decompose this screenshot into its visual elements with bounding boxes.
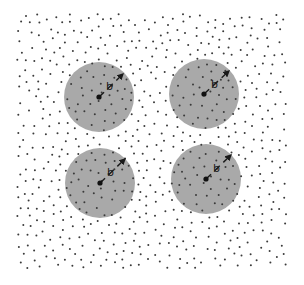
point-dot xyxy=(219,265,221,267)
point-dot xyxy=(234,25,236,27)
point-dot xyxy=(241,255,243,257)
point-dot xyxy=(100,188,102,190)
point-dot xyxy=(147,244,149,246)
point-dot xyxy=(163,140,165,142)
point-dot xyxy=(27,245,29,247)
point-dot xyxy=(264,55,266,57)
point-dot xyxy=(19,75,21,77)
point-dot xyxy=(123,119,125,121)
point-dot xyxy=(222,87,224,89)
point-dot xyxy=(82,95,84,97)
point-dot xyxy=(257,38,259,40)
point-dot xyxy=(279,166,281,168)
point-dot xyxy=(91,30,93,32)
point-dot xyxy=(57,132,59,134)
point-dot xyxy=(19,102,21,104)
point-dot xyxy=(91,63,93,65)
point-dot xyxy=(83,201,85,203)
point-dot xyxy=(128,165,130,167)
point-dot xyxy=(193,257,195,259)
point-dot xyxy=(103,129,105,131)
point-dot xyxy=(62,244,64,246)
point-dot xyxy=(205,153,207,155)
point-dot xyxy=(135,47,137,49)
point-dot xyxy=(58,189,60,191)
point-dot xyxy=(176,116,178,118)
point-field-figure: bbbb xyxy=(0,0,304,285)
point-dot xyxy=(146,169,148,171)
point-dot xyxy=(130,92,132,94)
point-dot xyxy=(84,61,86,63)
point-dot xyxy=(104,214,106,216)
point-dot xyxy=(93,137,95,139)
point-dot xyxy=(143,125,145,127)
point-dot xyxy=(124,157,126,159)
point-dot xyxy=(59,236,61,238)
point-dot xyxy=(139,246,141,248)
point-dot xyxy=(283,253,285,255)
point-dot xyxy=(155,48,157,50)
point-dot xyxy=(69,238,71,240)
point-dot xyxy=(271,64,273,66)
point-dot xyxy=(168,242,170,244)
point-dot xyxy=(184,178,186,180)
point-dot xyxy=(224,233,226,235)
point-dot xyxy=(137,120,139,122)
point-dot xyxy=(112,152,114,154)
point-dot xyxy=(104,44,106,46)
point-dot xyxy=(110,18,112,20)
point-dot xyxy=(251,125,253,127)
point-dot xyxy=(133,152,135,154)
point-dot xyxy=(25,180,27,182)
point-dot xyxy=(159,261,161,263)
point-dot xyxy=(33,60,35,62)
radius-label: b xyxy=(106,80,113,93)
point-dot xyxy=(163,223,165,225)
point-dot xyxy=(207,118,209,120)
point-dot xyxy=(206,64,208,66)
point-dot xyxy=(139,191,141,193)
point-dot xyxy=(165,114,167,116)
point-dot xyxy=(163,160,165,162)
point-dot xyxy=(166,49,168,51)
point-dot xyxy=(249,16,251,18)
point-dot xyxy=(228,179,230,181)
point-dot xyxy=(284,62,286,64)
point-dot xyxy=(38,34,40,36)
point-dot xyxy=(132,135,134,137)
point-dot xyxy=(214,19,216,21)
point-dot xyxy=(80,31,82,33)
point-dot xyxy=(81,169,83,171)
point-dot xyxy=(184,32,186,34)
point-dot xyxy=(125,108,127,110)
point-dot xyxy=(169,191,171,193)
point-dot xyxy=(262,63,264,65)
point-dot xyxy=(121,98,123,100)
point-dot xyxy=(145,204,147,206)
point-dot xyxy=(90,46,92,48)
point-dot xyxy=(162,194,164,196)
point-dot xyxy=(123,250,125,252)
point-dot xyxy=(216,103,218,105)
point-dot xyxy=(239,206,241,208)
point-dot xyxy=(25,15,27,17)
point-dot xyxy=(74,127,76,129)
point-dot xyxy=(247,222,249,224)
point-dot xyxy=(94,239,96,241)
point-dot xyxy=(217,127,219,129)
point-dot xyxy=(64,41,66,43)
point-dot xyxy=(98,100,100,102)
point-dot xyxy=(86,211,88,213)
point-dot xyxy=(165,56,167,58)
point-dot xyxy=(220,79,222,81)
point-dot xyxy=(251,82,253,84)
point-dot xyxy=(22,224,24,226)
point-dot xyxy=(42,230,44,232)
point-dot xyxy=(59,179,61,181)
point-dot xyxy=(178,164,180,166)
point-dot xyxy=(216,216,218,218)
point-dot xyxy=(218,136,220,138)
point-dot xyxy=(129,228,131,230)
point-dot xyxy=(28,89,30,91)
point-dot xyxy=(138,264,140,266)
